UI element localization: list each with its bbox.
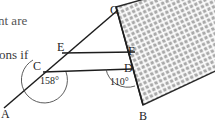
- geometry-diagram: A B C D E F G 158° 110°: [0, 0, 215, 124]
- vertex-label-E: E: [57, 40, 64, 54]
- geometry-figure-canvas: nt are ons if A B C D E F: [0, 0, 215, 124]
- angle-label-D: 110°: [110, 76, 129, 87]
- line-segment-E-F: [62, 52, 135, 53]
- vertex-label-D: D: [124, 61, 133, 75]
- vertex-label-A: A: [1, 107, 10, 121]
- angle-label-C: 158°: [40, 75, 59, 86]
- line-segment-A-G: [4, 10, 118, 108]
- vertex-label-B: B: [139, 109, 147, 123]
- vertex-label-F: F: [128, 44, 135, 58]
- vertex-label-G: G: [110, 3, 119, 17]
- vertex-label-C: C: [33, 59, 41, 73]
- line-segment-C-D: [43, 69, 132, 72]
